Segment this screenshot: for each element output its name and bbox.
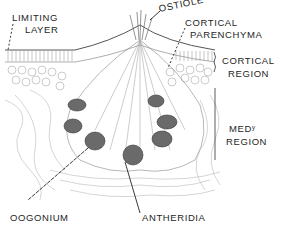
label-limiting-layer-line2: LAYER bbox=[25, 24, 58, 35]
region-brackets bbox=[214, 52, 216, 160]
label-cortical-region-line1: CORTICAL bbox=[222, 55, 275, 66]
cortical-cells bbox=[8, 64, 212, 90]
label-cortical-region-line2: REGION bbox=[228, 68, 269, 79]
label-cortical-parenchyma-line2: PARENCHYMA bbox=[190, 29, 262, 40]
conceptacle-diagram: LIMITING LAYER OSTIOLE CORTICAL PARENCHY… bbox=[0, 0, 286, 229]
label-medullary-region-line2: REGION bbox=[226, 136, 267, 147]
ostiole-tuft bbox=[130, 10, 152, 40]
leader-lines bbox=[8, 11, 185, 213]
label-cortical-parenchyma-line1: CORTICAL bbox=[185, 17, 238, 28]
medullary-filaments bbox=[5, 90, 220, 200]
label-medullary-region-line1: MEDʸ bbox=[229, 123, 256, 134]
label-oogonium: OOGONIUM bbox=[10, 212, 69, 223]
label-antheridia: ANTHERIDIA bbox=[142, 212, 206, 223]
label-limiting-layer-line1: LIMITING bbox=[12, 12, 58, 23]
reproductive-cells bbox=[64, 95, 177, 165]
